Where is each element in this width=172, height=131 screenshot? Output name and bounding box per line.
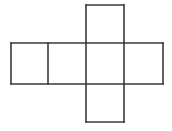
face-back — [124, 43, 163, 84]
cube-net-figure — [0, 0, 172, 131]
face-left — [11, 43, 48, 84]
face-bottom — [86, 84, 124, 122]
face-right — [86, 43, 124, 84]
face-front — [48, 43, 86, 84]
face-top — [86, 5, 124, 43]
cube-net-svg — [0, 0, 172, 131]
